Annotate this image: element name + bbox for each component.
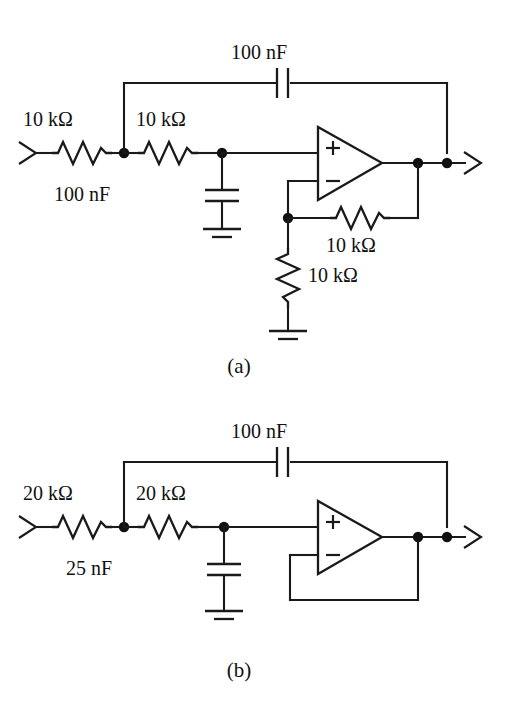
label-r1-a: 10 kΩ [23,108,73,130]
figure-root: 10 kΩ 10 kΩ 100 nF 100 nF 10 kΩ 10 kΩ (a… [0,0,506,710]
label-cf-a: 100 nF [231,41,287,63]
opamp-a [318,127,382,200]
label-cs-a: 100 nF [54,183,110,205]
input-terminal-arrow-b [19,516,36,538]
label-cf-b: 100 nF [231,420,287,442]
node-dot-b4 [442,532,452,542]
circuit-b: 20 kΩ 20 kΩ 100 nF 25 nF (b) [19,420,481,682]
resistor-r1-b [52,516,112,538]
output-terminal-arrow-b [464,526,481,548]
caption-a: (a) [227,354,250,378]
label-r2-a: 10 kΩ [136,108,186,130]
resistor-gain-feedback-a [330,207,390,229]
node-dot-b3 [413,532,423,542]
resistor-r1-a [52,142,112,164]
opamp-b [318,501,382,574]
resistor-r2-a [138,142,198,164]
resistor-r2-b [138,516,198,538]
label-rg-a: 10 kΩ [308,264,358,286]
label-rf-a: 10 kΩ [326,234,376,256]
caption-b: (b) [227,658,252,682]
label-cs-b: 25 nF [66,557,112,579]
input-terminal-arrow-a [19,142,36,164]
label-r1-b: 20 kΩ [23,482,73,504]
node-dot-a5 [442,158,452,168]
output-terminal-arrow-a [464,152,481,174]
resistor-gain-ground-a [277,248,299,308]
circuit-a: 10 kΩ 10 kΩ 100 nF 100 nF 10 kΩ 10 kΩ (a… [19,41,481,378]
circuit-diagram-svg: 10 kΩ 10 kΩ 100 nF 100 nF 10 kΩ 10 kΩ (a… [0,0,506,710]
label-r2-b: 20 kΩ [136,482,186,504]
